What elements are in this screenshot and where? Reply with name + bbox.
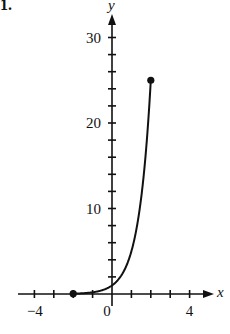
- x-tick-label: 4: [186, 304, 194, 319]
- y-axis-arrow-icon: [108, 14, 116, 25]
- x-tick-label: 0: [103, 304, 111, 319]
- y-tick-label: 20: [86, 116, 101, 131]
- axes: [18, 14, 214, 306]
- x-axis-label: x: [217, 285, 224, 300]
- y-axis-label: y: [108, 0, 115, 13]
- y-tick-label: 10: [86, 202, 101, 217]
- x-tick-label: −4: [27, 304, 43, 319]
- function-graph: [0, 0, 230, 334]
- x-axis-arrow-icon: [203, 290, 214, 298]
- closed-endpoint-dot: [70, 290, 77, 297]
- closed-endpoint-dot: [147, 77, 154, 84]
- y-tick-label: 30: [86, 31, 101, 46]
